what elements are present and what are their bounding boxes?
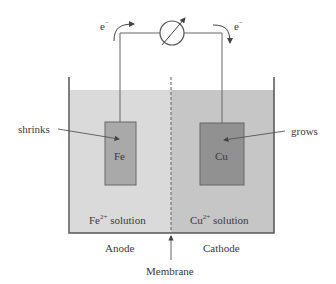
shrinks-label: shrinks <box>18 123 50 135</box>
membrane-label: Membrane <box>146 265 194 277</box>
anode-solution-label: Fe2+ solution <box>89 214 146 226</box>
fe-electrode-label: Fe <box>114 150 125 162</box>
cell-diagram <box>0 0 336 284</box>
grows-label: grows <box>291 125 318 137</box>
anode-label: Anode <box>105 242 134 254</box>
cu-electrode-label: Cu <box>215 150 228 162</box>
cathode-solution-label: Cu2+ solution <box>190 214 249 226</box>
electron-label-left: e− <box>100 20 109 32</box>
cathode-label: Cathode <box>203 242 240 254</box>
electron-label-right: e− <box>234 20 243 32</box>
